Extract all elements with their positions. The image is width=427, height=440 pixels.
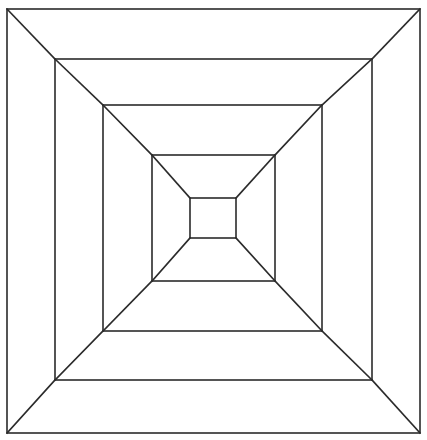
background-rect bbox=[0, 0, 427, 440]
nested-squares-illusion-drawing bbox=[0, 0, 427, 440]
figure-canvas bbox=[0, 0, 427, 440]
